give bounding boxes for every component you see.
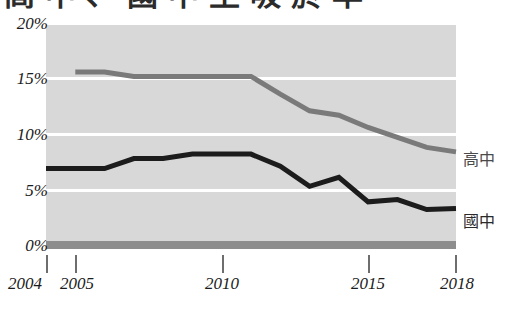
legend-label-high-school: 高中 — [463, 146, 495, 170]
series-layer — [0, 0, 514, 310]
series-line-high-school — [75, 72, 456, 152]
legend-label-junior-high: 國中 — [463, 208, 495, 232]
series-line-junior-high — [46, 154, 456, 210]
line-chart: 20% 15% 10% 5% 0% 2004 2005 2010 2015 20… — [0, 0, 514, 310]
